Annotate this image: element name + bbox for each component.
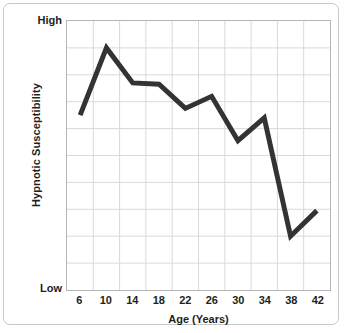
y-axis-label-high: High [20,14,62,26]
x-tick-label: 42 [301,294,335,306]
y-axis-label-low: Low [20,282,62,294]
chart-card: Hypnotic Susceptibility High Low 6101418… [3,3,339,325]
line-series [67,21,330,290]
x-axis-title: Age (Years) [66,313,331,325]
x-axis-labels: 6101418222630343842 [66,294,331,312]
y-axis-labels: High Low [18,4,62,333]
plot-area [66,20,331,291]
